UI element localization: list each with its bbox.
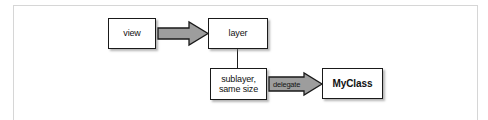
node-myclass-label: MyClass [331,78,375,89]
node-view-label: view [121,28,142,38]
node-layer: layer [208,18,268,49]
block-arrow-sublayer-to-myclass [268,72,323,96]
node-sublayer: sublayer, same size [210,68,267,100]
diagram-canvas: delegate view layer sublayer, same size … [0,0,488,120]
block-arrow-view-to-layer [157,21,209,46]
node-view: view [108,18,156,49]
node-myclass: MyClass [322,68,383,99]
connector-layer-to-sublayer [237,48,238,69]
node-layer-label: layer [227,28,250,38]
node-sublayer-label: sublayer, same size [217,74,260,94]
